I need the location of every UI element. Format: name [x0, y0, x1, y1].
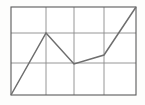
- chart-svg: [0, 0, 145, 105]
- line-chart-figure: [0, 0, 145, 105]
- page-root: [0, 0, 145, 105]
- plot-background: [11, 7, 136, 95]
